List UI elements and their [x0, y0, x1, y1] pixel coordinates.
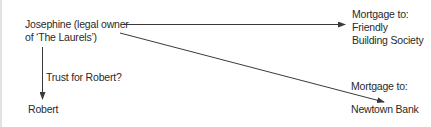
node-josephine-line2: of ‘The Laurels’): [25, 31, 129, 44]
node-friendly-line3: Building Society: [352, 34, 424, 47]
node-friendly-line2: Friendly: [352, 21, 424, 34]
node-friendly-building-society: Mortgage to: Friendly Building Society: [352, 8, 424, 47]
node-josephine-line1: Josephine (legal owner: [25, 18, 129, 31]
node-josephine: Josephine (legal owner of ‘The Laurels’): [25, 18, 129, 44]
node-newtown-bank-line2: Newtown Bank: [351, 103, 419, 116]
node-newtown-bank-line1: Mortgage to:: [351, 80, 408, 93]
edge-label-trust: Trust for Robert?: [46, 71, 122, 84]
node-robert: Robert: [28, 103, 58, 116]
node-friendly-line1: Mortgage to:: [352, 8, 424, 21]
arrow-josephine-to-newtown: [120, 33, 384, 102]
